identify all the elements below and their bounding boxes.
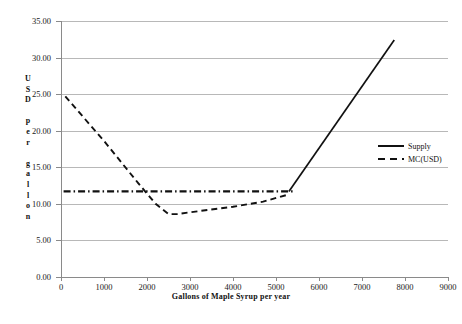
y-axis-title-char: e xyxy=(21,127,35,138)
legend-swatch-solid-icon xyxy=(378,145,404,147)
y-axis-title-char: g xyxy=(21,159,35,170)
legend-item-mc: MC(USD) xyxy=(378,153,458,166)
y-axis-title-char: S xyxy=(21,85,35,96)
y-axis-title-char: r xyxy=(21,138,35,149)
y-axis-title-char: l xyxy=(21,180,35,191)
legend-item-supply: Supply xyxy=(378,140,458,153)
series-line-mc xyxy=(65,96,289,214)
legend-label: MC(USD) xyxy=(408,153,442,166)
legend-label: Supply xyxy=(408,140,431,153)
y-axis-title: USD per gallon xyxy=(21,74,35,222)
chart-legend: Supply MC(USD) xyxy=(378,140,458,166)
y-axis-title-char xyxy=(21,106,35,117)
y-axis-title-char: a xyxy=(21,169,35,180)
y-axis-title-char: D xyxy=(21,95,35,106)
chart-container: 35.00 30.00 25.00 20.00 15.00 10.00 5.00… xyxy=(0,0,462,324)
x-axis-title: Gallons of Maple Syrup per year xyxy=(0,292,462,301)
y-axis-title-char xyxy=(21,148,35,159)
legend-swatch-dashed-icon xyxy=(378,158,404,160)
y-axis-title-char: U xyxy=(21,74,35,85)
y-axis-title-char: o xyxy=(21,201,35,212)
y-axis-title-char: l xyxy=(21,191,35,202)
y-axis-title-char: p xyxy=(21,116,35,127)
y-axis-title-char: n xyxy=(21,212,35,223)
series-line-supply xyxy=(289,40,394,191)
